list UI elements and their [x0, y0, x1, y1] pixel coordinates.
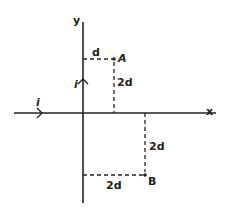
- a-vertical-dimension: 2d: [117, 76, 133, 89]
- point-b-marker: [143, 173, 147, 177]
- point-a-label: A: [117, 52, 127, 65]
- b-vertical-dimension: 2d: [149, 140, 165, 153]
- a-horizontal-dimension: d: [92, 46, 100, 59]
- point-b-label: B: [148, 175, 156, 188]
- x-current-label: i: [36, 96, 40, 109]
- y-axis-label: y: [73, 14, 80, 27]
- coordinate-diagram: x y i i A d 2d B 2d 2d: [0, 0, 228, 216]
- y-current-label: i: [74, 78, 78, 91]
- b-horizontal-dimension: 2d: [106, 179, 122, 192]
- x-axis-label: x: [206, 105, 213, 118]
- point-a-marker: [112, 57, 116, 61]
